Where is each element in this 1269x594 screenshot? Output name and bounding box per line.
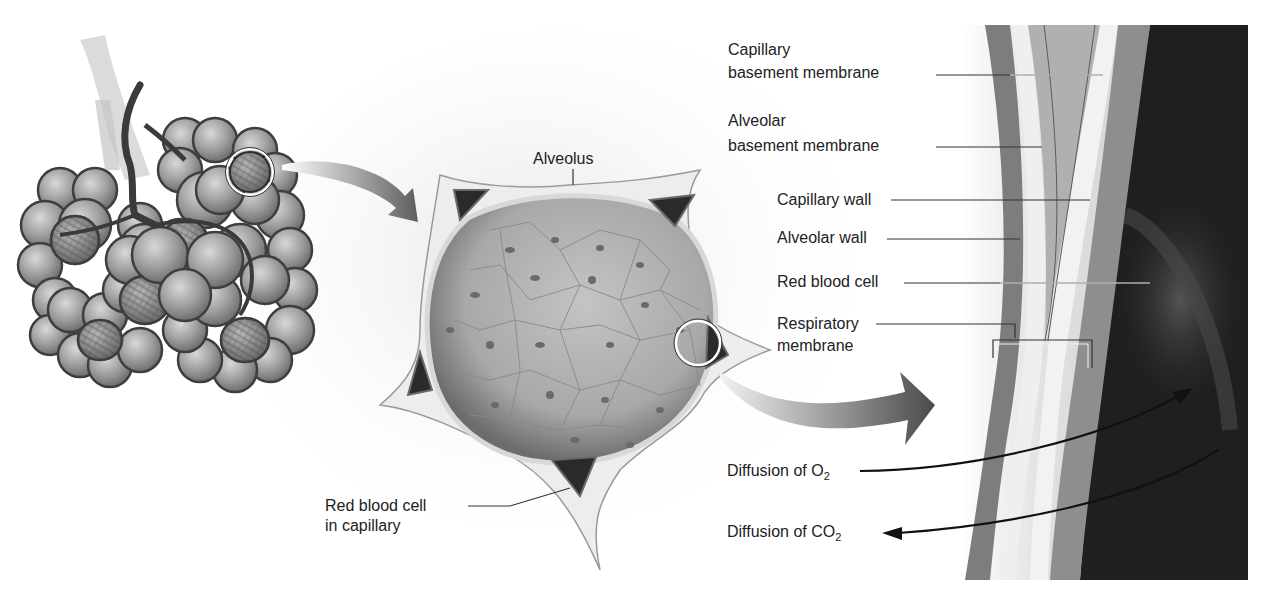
- label-diffusion-co2: Diffusion of CO2: [727, 522, 841, 542]
- label-capillary-bm-line2: basement membrane: [728, 63, 879, 83]
- respiratory-membrane-diagram: Alveolus Red blood cell in capillary Cap…: [0, 0, 1269, 594]
- label-capillary-bm-line1: Capillary: [728, 40, 790, 60]
- label-capillary-wall: Capillary wall: [777, 190, 871, 210]
- respiratory-membrane-illustration: [960, 25, 1248, 580]
- label-rbc-capillary-line2: in capillary: [325, 516, 401, 536]
- diagram-artwork: [0, 0, 1269, 594]
- label-resp-membrane-line2: membrane: [777, 336, 853, 356]
- label-alveolus: Alveolus: [533, 149, 593, 169]
- alveolar-sac-illustration: [18, 35, 317, 392]
- label-rbc-capillary-line1: Red blood cell: [325, 496, 426, 516]
- label-alveolar-bm-line2: basement membrane: [728, 136, 879, 156]
- label-red-blood-cell: Red blood cell: [777, 272, 878, 292]
- label-alveolar-wall: Alveolar wall: [777, 228, 867, 248]
- label-diffusion-o2: Diffusion of O2: [727, 461, 830, 481]
- label-resp-membrane-line1: Respiratory: [777, 314, 859, 334]
- diffusion-co2-arrowhead: [882, 527, 902, 540]
- label-alveolar-bm-line1: Alveolar: [728, 111, 786, 131]
